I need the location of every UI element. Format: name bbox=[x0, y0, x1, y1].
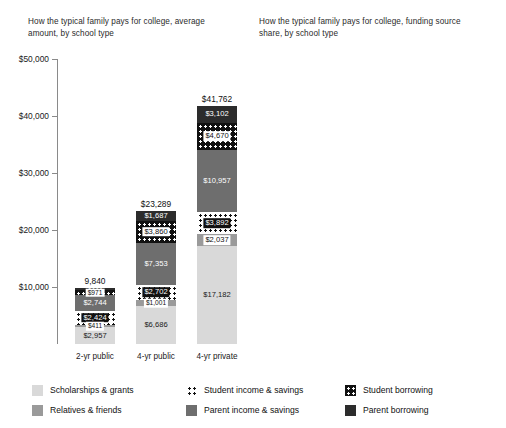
segment-parent-income-savings[interactable]: $2,744 bbox=[75, 295, 115, 311]
y-tick bbox=[52, 173, 57, 174]
legend-label: Parent borrowing bbox=[363, 405, 428, 415]
segment-value-label: $971 bbox=[86, 288, 105, 297]
legend-label: Parent income & savings bbox=[204, 405, 299, 415]
legend-column: Student borrowingParent borrowing bbox=[345, 380, 433, 420]
panel-average-amount: How the typical family pays for college,… bbox=[0, 0, 253, 378]
legend-item-student_income[interactable]: Student income & savings bbox=[186, 380, 303, 400]
segment-value-label: $6,686 bbox=[144, 321, 167, 329]
segment-value-label: $4,670 bbox=[203, 132, 230, 142]
legend-column: Scholarships & grantsRelatives & friends bbox=[32, 380, 134, 420]
y-tick-label: $40,000 bbox=[19, 111, 49, 121]
segment-student-borrowing[interactable]: $3,860 bbox=[136, 221, 176, 243]
segment-value-label: $10,957 bbox=[203, 177, 230, 185]
segment-relatives-friends[interactable]: $2,037 bbox=[197, 234, 237, 246]
y-tick-label: $50,000 bbox=[19, 54, 49, 64]
left-chart-title: How the typical family pays for college,… bbox=[28, 16, 233, 39]
segment-value-label: $3,860 bbox=[142, 227, 169, 237]
segment-value-label: $2,957 bbox=[83, 332, 106, 340]
segment-value-label: $3,892 bbox=[203, 219, 230, 229]
segment-value-label: $3,102 bbox=[205, 111, 228, 119]
bar-total-label: $41,762 bbox=[202, 94, 232, 104]
y-tick bbox=[52, 116, 57, 117]
legend-item-parent_income[interactable]: Parent income & savings bbox=[186, 400, 303, 420]
category-label: 2-yr public bbox=[76, 352, 114, 361]
y-tick-label: $20,000 bbox=[19, 225, 49, 235]
segment-scholarships-grants[interactable]: $6,686 bbox=[136, 306, 176, 344]
left-plot-area: $10,000$20,000$30,000$40,000$50,000$333$… bbox=[57, 59, 237, 344]
segment-value-label: $2,037 bbox=[203, 235, 230, 245]
category-label: 4-yr private bbox=[197, 352, 238, 361]
y-tick bbox=[52, 287, 57, 288]
y-tick-label: $30,000 bbox=[19, 168, 49, 178]
segment-parent-borrowing[interactable]: $3,102 bbox=[197, 106, 237, 124]
segment-parent-income-savings[interactable]: $10,957 bbox=[197, 150, 237, 212]
legend-column: Student income & savingsParent income & … bbox=[186, 380, 303, 420]
legend: Scholarships & grantsRelatives & friends… bbox=[0, 380, 506, 428]
legend-swatch-icon bbox=[32, 385, 43, 396]
legend-item-student_borrowing[interactable]: Student borrowing bbox=[345, 380, 433, 400]
bar-total-label: $23,289 bbox=[141, 199, 171, 209]
right-chart-title: How the typical family pays for college,… bbox=[259, 16, 474, 39]
bar-2-yr-public[interactable]: $333$971$2,744$2,424$411$2,9579,8402-yr … bbox=[75, 288, 115, 344]
legend-label: Student borrowing bbox=[363, 385, 433, 395]
segment-parent-income-savings[interactable]: $7,353 bbox=[136, 243, 176, 285]
segment-student-borrowing[interactable]: $4,670 bbox=[197, 123, 237, 150]
segment-value-label: $2,702 bbox=[142, 288, 169, 298]
segment-scholarships-grants[interactable]: $17,182 bbox=[197, 246, 237, 344]
panel-funding-share: How the typical family pays for college,… bbox=[253, 0, 506, 378]
legend-label: Scholarships & grants bbox=[50, 385, 134, 395]
segment-value-label: $17,182 bbox=[203, 291, 230, 299]
left-y-axis bbox=[57, 59, 58, 344]
legend-swatch-icon bbox=[345, 405, 356, 416]
legend-swatch-icon bbox=[32, 405, 43, 416]
y-tick-label: $10,000 bbox=[19, 282, 49, 292]
segment-value-label: $2,744 bbox=[83, 299, 106, 307]
legend-item-relatives[interactable]: Relatives & friends bbox=[32, 400, 134, 420]
chart-page: How the typical family pays for college,… bbox=[0, 0, 506, 428]
bar-4-yr-private[interactable]: $3,102$4,670$10,957$3,892$2,037$17,182$4… bbox=[197, 106, 237, 344]
bar-4-yr-public[interactable]: $1,687$3,860$7,353$2,702$1,001$6,686$23,… bbox=[136, 211, 176, 344]
y-tick bbox=[52, 230, 57, 231]
legend-item-parent_borrowing[interactable]: Parent borrowing bbox=[345, 400, 433, 420]
segment-value-label: $1,687 bbox=[144, 212, 167, 220]
segment-value-label: $411 bbox=[86, 322, 104, 331]
legend-item-scholarships[interactable]: Scholarships & grants bbox=[32, 380, 134, 400]
legend-swatch-icon bbox=[186, 385, 197, 396]
legend-label: Student income & savings bbox=[204, 385, 303, 395]
legend-label: Relatives & friends bbox=[50, 405, 122, 415]
segment-value-label: $7,353 bbox=[144, 260, 167, 268]
category-label: 4-yr public bbox=[137, 352, 175, 361]
legend-swatch-icon bbox=[186, 405, 197, 416]
y-tick bbox=[52, 59, 57, 60]
legend-swatch-icon bbox=[345, 385, 356, 396]
segment-parent-borrowing[interactable]: $1,687 bbox=[136, 211, 176, 221]
segment-value-label: $1,001 bbox=[144, 299, 168, 308]
segment-student-income-savings[interactable]: $3,892 bbox=[197, 212, 237, 234]
